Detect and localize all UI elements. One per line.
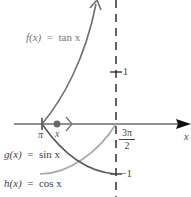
frac-num: 3π: [119, 128, 135, 140]
label-tan-eq: =: [44, 31, 56, 43]
label-sin-fname: g(x): [4, 148, 22, 160]
label-sin-eq: =: [24, 148, 36, 160]
label-sin: g(x) = sin x: [4, 149, 60, 160]
x-axis-label: x: [184, 132, 188, 142]
label-sin-expr: sin x: [39, 148, 60, 160]
point-x-dot: [54, 121, 61, 128]
label-cos-fname: h(x): [4, 177, 22, 189]
label-cos-expr: cos x: [39, 177, 62, 189]
curve-tan: [42, 4, 96, 124]
label-tan-fname: f(x): [26, 31, 41, 43]
frac-den: 2: [119, 140, 135, 151]
x-axis-arrow-icon: [176, 119, 191, 129]
trig-diagram-canvas: [0, 0, 191, 197]
label-cos-eq: =: [24, 177, 36, 189]
tick-label-pi: π: [38, 130, 43, 140]
label-cos: h(x) = cos x: [4, 178, 62, 189]
point-x-label: x: [55, 129, 59, 139]
tick-label-1: 1: [123, 67, 128, 77]
tick-label-neg1: −1: [121, 169, 132, 179]
label-tan-expr: tan x: [58, 31, 80, 43]
label-tan: f(x) = tan x: [26, 32, 80, 43]
tick-label-3pi-over-2: 3π 2: [119, 128, 135, 151]
